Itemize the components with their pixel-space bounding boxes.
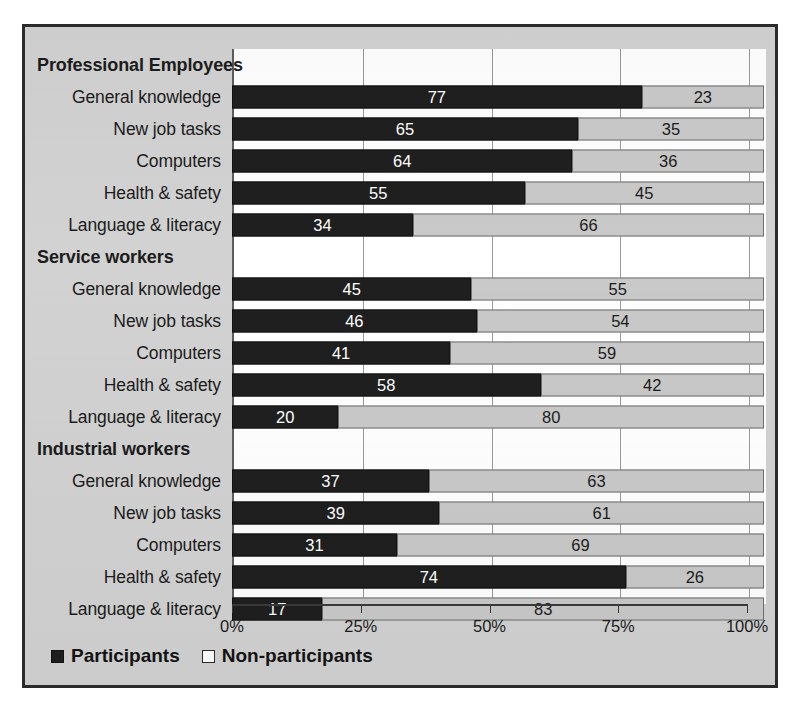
bar-value-non-participants: 54 [611,312,629,329]
bar-cell: 2080 [232,401,775,433]
bar-segment-participants: 45 [232,278,471,301]
bar-cell: 6535 [232,113,775,145]
stacked-bar: 6535 [232,118,764,141]
category-label: Computers [25,343,232,364]
legend-label-non-participants: Non-participants [222,645,373,667]
chart-rows: Professional EmployeesGeneral knowledge7… [25,27,775,685]
bar-value-participants: 55 [369,184,387,201]
category-label: New job tasks [25,119,232,140]
bar-value-non-participants: 66 [579,216,597,233]
bar-segment-participants: 77 [232,86,642,109]
chart-row: Language & literacy3466 [25,209,775,241]
bar-segment-participants: 58 [232,374,541,397]
bar-value-participants: 20 [276,408,294,425]
category-label: Health & safety [25,567,232,588]
stacked-bar: 6436 [232,150,764,173]
bar-segment-participants: 37 [232,470,429,493]
bar-cell: 7723 [232,81,775,113]
bar-cell: 7426 [232,561,775,593]
bar-value-non-participants: 23 [694,88,712,105]
bar-value-participants: 34 [313,216,331,233]
category-label: New job tasks [25,503,232,524]
group-header-row: Service workers [25,241,775,273]
stacked-bar: 7723 [232,86,764,109]
bar-segment-participants: 65 [232,118,578,141]
bar-value-non-participants: 63 [587,472,605,489]
group-header-row: Professional Employees [25,49,775,81]
bar-cell: 4555 [232,273,775,305]
stacked-bar: 5842 [232,374,764,397]
stacked-bar: 7426 [232,566,764,589]
bar-value-participants: 45 [343,280,361,297]
chart-row: Computers6436 [25,145,775,177]
axis-tick-label: 100% [726,617,768,636]
bar-segment-non-participants: 36 [572,150,764,173]
chart-legend: Participants Non-participants [51,645,373,667]
category-label: General knowledge [25,87,232,108]
bar-segment-participants: 46 [232,310,477,333]
chart-frame: Professional EmployeesGeneral knowledge7… [22,24,778,688]
chart-row: Health & safety5545 [25,177,775,209]
bar-segment-participants: 64 [232,150,572,173]
bar-value-non-participants: 36 [659,152,677,169]
chart-row: New job tasks6535 [25,113,775,145]
axis-tick-label: 75% [602,617,635,636]
chart-row: Health & safety5842 [25,369,775,401]
bar-cell: 5842 [232,369,775,401]
bar-value-non-participants: 45 [635,184,653,201]
category-label: General knowledge [25,471,232,492]
bar-value-participants: 64 [393,152,411,169]
bar-value-participants: 46 [345,312,363,329]
bar-value-non-participants: 80 [542,408,560,425]
bar-segment-non-participants: 23 [642,86,764,109]
bar-segment-non-participants: 80 [338,406,764,429]
group-header-label: Industrial workers [25,439,232,460]
bar-value-participants: 31 [305,536,323,553]
legend-label-participants: Participants [71,645,180,667]
bar-value-non-participants: 69 [571,536,589,553]
bar-segment-participants: 55 [232,182,525,205]
bar-segment-participants: 39 [232,502,439,525]
stacked-bar: 2080 [232,406,764,429]
axis-tick [232,604,233,613]
chart-row: Health & safety7426 [25,561,775,593]
group-header-plot-cell [232,241,775,273]
bar-value-participants: 58 [377,376,395,393]
bar-value-participants: 74 [420,568,438,585]
bar-segment-participants: 34 [232,214,413,237]
legend-item-non-participants: Non-participants [202,645,373,667]
category-label: Health & safety [25,183,232,204]
legend-swatch-participants-icon [51,650,64,663]
bar-cell: 5545 [232,177,775,209]
bar-segment-non-participants: 59 [450,342,764,365]
x-axis: 0%25%50%75%100% [232,604,764,644]
axis-tick [747,604,748,613]
bar-segment-non-participants: 35 [578,118,764,141]
bar-value-non-participants: 59 [598,344,616,361]
stacked-bar: 4555 [232,278,764,301]
group-header-plot-cell [232,49,775,81]
group-header-label: Professional Employees [25,55,232,76]
bar-segment-participants: 74 [232,566,626,589]
stacked-bar: 4654 [232,310,764,333]
bar-cell: 4654 [232,305,775,337]
stacked-bar: 3961 [232,502,764,525]
stacked-bar: 3169 [232,534,764,557]
bar-value-non-participants: 26 [686,568,704,585]
bar-cell: 6436 [232,145,775,177]
axis-tick [618,604,619,613]
bar-segment-non-participants: 63 [429,470,764,493]
bar-cell: 3961 [232,497,775,529]
group-header-row: Industrial workers [25,433,775,465]
bar-segment-non-participants: 42 [541,374,764,397]
axis-tick-label: 25% [344,617,377,636]
legend-item-participants: Participants [51,645,180,667]
bar-segment-participants: 20 [232,406,338,429]
chart-row: General knowledge3763 [25,465,775,497]
bar-segment-non-participants: 45 [525,182,764,205]
group-header-label: Service workers [25,247,232,268]
bar-value-participants: 39 [327,504,345,521]
category-label: Computers [25,151,232,172]
category-label: Language & literacy [25,407,232,428]
bar-value-participants: 77 [428,88,446,105]
